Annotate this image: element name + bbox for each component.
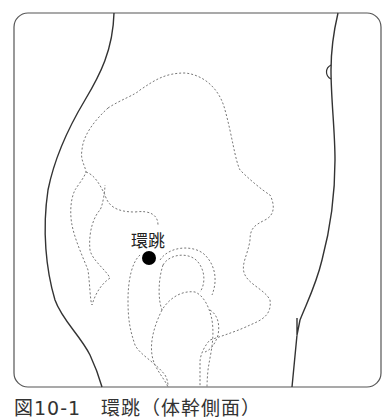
sacral-outline (86, 172, 158, 225)
ilium-outline (71, 108, 110, 305)
femoral-head-inner (163, 255, 204, 292)
femoral-head-outer (160, 248, 215, 295)
body-outline-back (45, 13, 114, 387)
acetabulum-outline (128, 255, 168, 387)
acupoint-marker (142, 251, 156, 265)
figure-caption: 図10-1 環跳（体幹側面） (14, 393, 261, 420)
acupoint-label: 環跳 (131, 227, 165, 252)
diagram-frame (14, 13, 381, 387)
femur-outline (159, 265, 213, 387)
body-outline-front (292, 13, 338, 387)
